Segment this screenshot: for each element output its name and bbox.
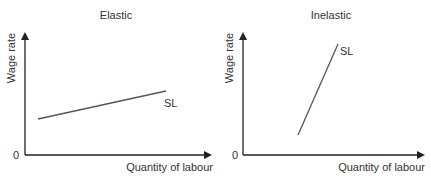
panel-title: Inelastic (311, 9, 352, 21)
supply-of-labour-diagrams: Elastic Wage rate Quantity of labour 0 S… (0, 0, 431, 183)
panel-title: Elastic (100, 9, 133, 21)
inelastic-panel: Inelastic Wage rate Quantity of labour 0… (223, 9, 425, 173)
supply-curve (298, 44, 338, 135)
curve-label: SL (164, 97, 177, 109)
origin-label: 0 (232, 149, 238, 161)
supply-curve (38, 91, 166, 119)
origin-label: 0 (13, 149, 19, 161)
x-axis-label: Quantity of labour (126, 161, 213, 173)
y-axis-label: Wage rate (223, 33, 235, 83)
y-axis-label: Wage rate (5, 33, 17, 83)
x-axis-label: Quantity of labour (338, 161, 425, 173)
elastic-panel: Elastic Wage rate Quantity of labour 0 S… (5, 9, 213, 173)
curve-label: SL (340, 45, 353, 57)
